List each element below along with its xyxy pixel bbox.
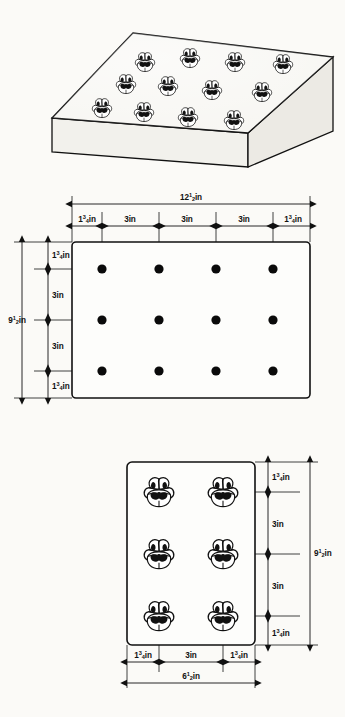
plant-dot: [97, 315, 106, 324]
figure-plan-grid: 1212in 134in 3in 3in 3in: [0, 186, 345, 428]
detail-v-seg-4-label: 134in: [272, 628, 290, 638]
h-seg-5-label: 134in: [284, 214, 302, 224]
v-seg-3-label: 3in: [52, 342, 64, 351]
v-seg-4-label: 134in: [52, 381, 70, 391]
diagram-page: 1212in 134in 3in 3in 3in: [0, 0, 345, 717]
h-seg-2-label: 3in: [124, 215, 136, 224]
plant-dot: [268, 264, 277, 273]
overall-height-label: 912in: [8, 315, 26, 325]
detail-overall-height-label: 912in: [314, 548, 332, 558]
plant-dot: [154, 264, 163, 273]
detail-v-seg-3-label: 3in: [272, 582, 284, 591]
detail-dimension-horizontal-chain: 134in 3in 134in 612in: [127, 645, 255, 688]
detail-v-seg-2-label: 3in: [272, 520, 284, 529]
detail-v-seg-1-label: 134in: [272, 472, 290, 482]
detail-h-seg-1-label: 134in: [134, 650, 152, 660]
h-seg-4-label: 3in: [238, 215, 250, 224]
detail-h-seg-3-label: 134in: [230, 650, 248, 660]
h-seg-1-label: 134in: [78, 214, 96, 224]
dimension-horizontal-chain: 134in 3in 3in 3in 134in: [72, 212, 310, 242]
v-seg-1-label: 134in: [52, 250, 70, 260]
perspective-svg: [0, 0, 345, 182]
figure-perspective-bed: [0, 0, 345, 182]
detail-h-seg-2-label: 3in: [185, 651, 197, 660]
plant-dot: [268, 315, 277, 324]
plant-dot: [268, 366, 277, 375]
plan-svg: 1212in 134in 3in 3in 3in: [0, 186, 345, 428]
plant-dot: [97, 264, 106, 273]
v-seg-2-label: 3in: [52, 291, 64, 300]
detail-dimension-overall-height: 912in: [310, 462, 332, 645]
detail-svg: 134in 3in 3in 134in 912in: [0, 440, 345, 702]
plant-dot: [211, 315, 220, 324]
h-seg-3-label: 3in: [181, 215, 193, 224]
overall-width-label: 1212in: [180, 192, 202, 202]
plant-dot: [154, 366, 163, 375]
figure-detail-flat: 134in 3in 3in 134in 912in: [0, 440, 345, 702]
plant-dot: [154, 315, 163, 324]
plant-dot: [97, 366, 106, 375]
plant-dot: [211, 366, 220, 375]
detail-overall-width-label: 612in: [182, 671, 200, 681]
dimension-vertical-chain: 134in 3in 3in 134in: [34, 242, 72, 398]
detail-dimension-vertical-chain: 134in 3in 3in 134in: [255, 462, 318, 645]
plant-dot: [211, 264, 220, 273]
